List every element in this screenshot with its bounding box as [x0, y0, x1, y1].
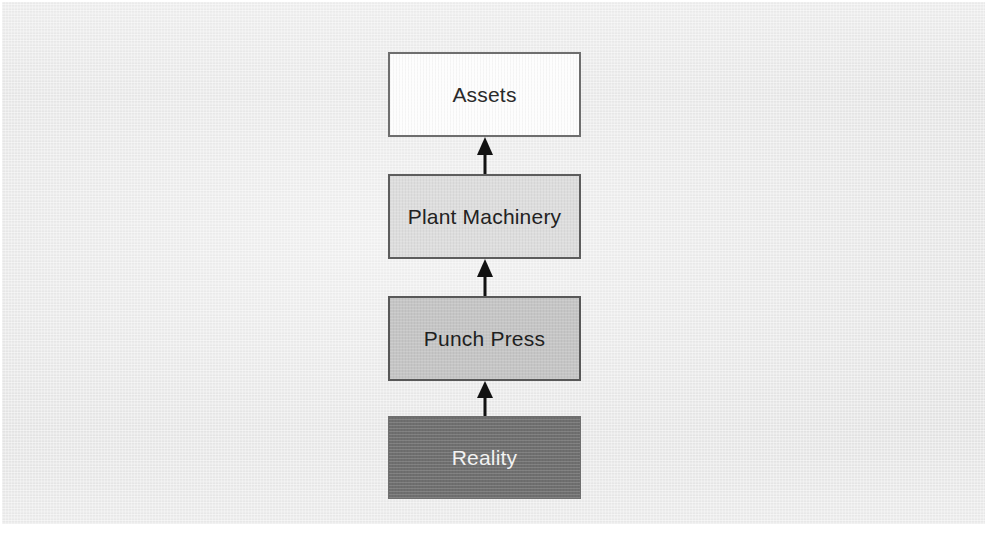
edge-reality-to-punch-press: [475, 381, 495, 417]
edge-plant-machinery-to-assets: [475, 137, 495, 175]
node-assets-label: Assets: [452, 84, 516, 105]
diagram-page: Assets Plant Machinery Punch Press: [0, 0, 997, 534]
node-assets[interactable]: Assets: [388, 52, 581, 137]
node-reality[interactable]: Reality: [388, 416, 581, 499]
node-plant-machinery[interactable]: Plant Machinery: [388, 174, 581, 259]
node-punch-press[interactable]: Punch Press: [388, 296, 581, 381]
node-plant-machinery-label: Plant Machinery: [408, 206, 562, 227]
abstraction-hierarchy-diagram: Assets Plant Machinery Punch Press: [0, 0, 997, 534]
node-punch-press-label: Punch Press: [424, 328, 545, 349]
edge-punch-press-to-plant-machinery: [475, 259, 495, 297]
node-reality-label: Reality: [452, 447, 518, 468]
